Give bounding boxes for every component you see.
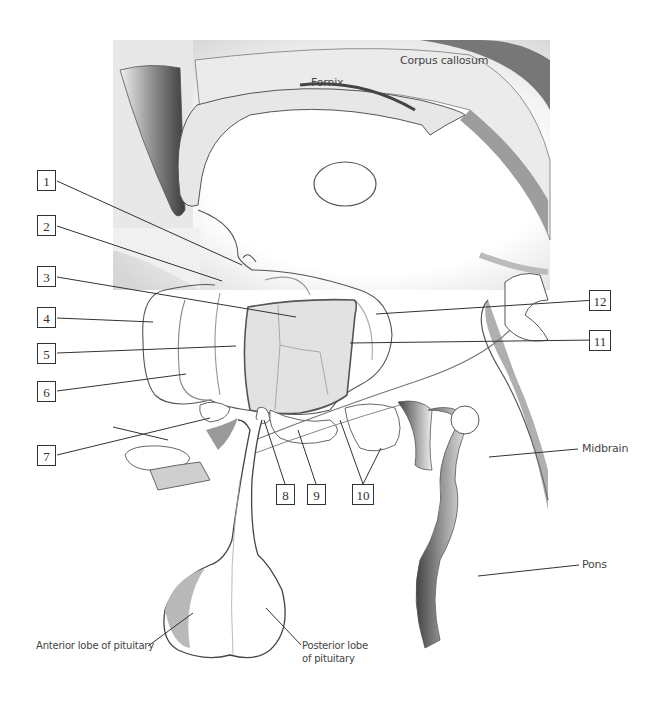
- label-fornix: Fornix: [311, 76, 343, 89]
- label-pons: Pons: [582, 558, 607, 571]
- callout-8: 8: [276, 484, 295, 505]
- callout-4: 4: [37, 307, 56, 328]
- central-nucleus: [244, 300, 356, 414]
- callout-12: 12: [589, 290, 611, 311]
- callout-10: 10: [352, 484, 374, 505]
- callout-11: 11: [589, 330, 611, 351]
- hypothalamus-diagram: [0, 0, 658, 702]
- label-midbrain: Midbrain: [582, 442, 628, 455]
- label-corpus-callosum: Corpus callosum: [400, 54, 488, 67]
- label-posterior-lobe-line1: Posterior lobe: [302, 640, 368, 651]
- callout-6: 6: [37, 381, 56, 402]
- callout-7: 7: [37, 445, 56, 466]
- callout-9: 9: [307, 484, 326, 505]
- callout-2: 2: [37, 215, 56, 236]
- red-nucleus-outline: [451, 406, 479, 434]
- interthalamic-adhesion: [314, 162, 376, 206]
- label-anterior-lobe: Anterior lobe of pituitary: [36, 640, 154, 651]
- callout-3: 3: [37, 266, 56, 287]
- label-posterior-lobe-line2: of pituitary: [302, 653, 355, 664]
- callout-1: 1: [37, 170, 56, 191]
- callout-5: 5: [37, 343, 56, 364]
